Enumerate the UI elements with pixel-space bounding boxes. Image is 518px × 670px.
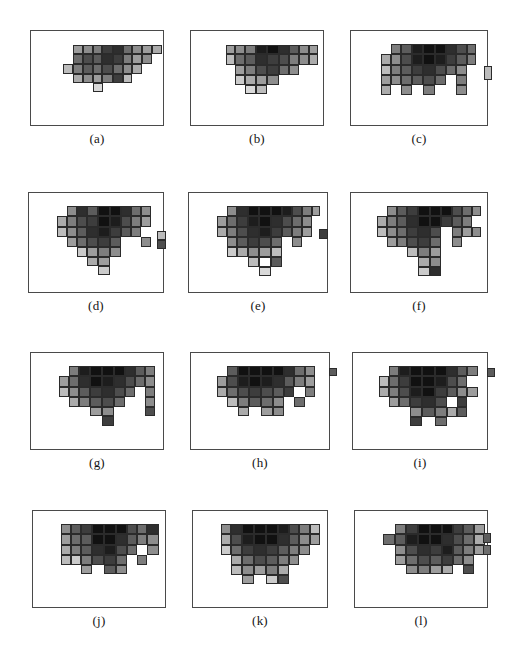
block-cell xyxy=(273,387,284,397)
block-cell xyxy=(256,45,267,54)
block-cell xyxy=(90,376,102,387)
block-cell xyxy=(294,397,305,407)
panel-caption-c: (c) xyxy=(350,131,488,146)
block-cell xyxy=(79,366,90,376)
block-cell xyxy=(279,54,289,65)
block-cell xyxy=(435,376,447,387)
block-cell xyxy=(289,555,299,565)
block-cell xyxy=(472,206,481,216)
block-cell xyxy=(284,366,294,376)
block-cell xyxy=(423,44,435,54)
block-cell xyxy=(110,237,121,247)
block-cell xyxy=(329,368,337,376)
block-cell xyxy=(248,247,259,257)
block-cell xyxy=(254,555,266,565)
block-cell xyxy=(145,376,155,387)
block-cell xyxy=(71,534,81,545)
panel-caption-i: (i) xyxy=(352,455,488,470)
block-cell xyxy=(453,555,463,565)
block-cell xyxy=(102,64,113,74)
block-cell xyxy=(452,237,462,247)
block-cell xyxy=(98,247,110,257)
block-cell xyxy=(435,54,446,65)
panel-canvas-k xyxy=(193,511,327,607)
block-cell xyxy=(391,75,401,85)
block-cell xyxy=(87,247,98,257)
block-cell xyxy=(261,387,273,397)
panel-e: (e) xyxy=(188,192,328,316)
block-cell xyxy=(71,555,81,565)
block-cell xyxy=(397,206,407,216)
block-cell xyxy=(93,45,102,54)
block-cell xyxy=(319,229,328,239)
block-cell xyxy=(442,565,453,574)
block-cell xyxy=(266,565,278,575)
block-cell xyxy=(423,65,435,75)
block-cell xyxy=(90,407,102,416)
block-cell xyxy=(387,237,397,247)
block-cell xyxy=(452,227,462,237)
block-cell xyxy=(242,555,254,565)
block-cell xyxy=(309,54,318,65)
block-cell xyxy=(462,227,472,237)
block-cell xyxy=(401,85,412,95)
block-cell xyxy=(242,575,254,584)
block-cell xyxy=(399,387,410,397)
block-cell xyxy=(249,366,261,376)
block-cell xyxy=(423,54,435,65)
block-cell xyxy=(157,240,166,249)
block-cell xyxy=(261,366,273,376)
block-cell xyxy=(412,75,423,85)
block-cell xyxy=(412,54,423,65)
block-cell xyxy=(61,545,71,555)
block-cell xyxy=(102,387,114,397)
block-cell xyxy=(237,216,248,227)
panel-frame-d xyxy=(28,192,164,293)
block-cell xyxy=(98,266,110,275)
block-cell xyxy=(259,206,271,216)
block-cell xyxy=(123,64,132,74)
block-cell xyxy=(399,397,410,407)
block-cell xyxy=(217,216,227,227)
block-cell xyxy=(121,206,131,216)
panel-caption-d: (d) xyxy=(28,298,164,313)
panel-frame-l xyxy=(354,510,488,608)
block-cell xyxy=(104,524,116,534)
block-cell xyxy=(271,216,282,227)
block-cell xyxy=(410,366,422,376)
block-cell xyxy=(456,65,467,75)
block-cell xyxy=(59,376,69,387)
block-cell xyxy=(430,227,441,237)
block-cell xyxy=(83,45,93,54)
block-cell xyxy=(237,206,248,216)
block-cell xyxy=(266,545,278,555)
block-cell xyxy=(435,407,447,417)
panel-caption-h: (h) xyxy=(190,455,330,470)
block-cell xyxy=(406,534,418,545)
block-cell xyxy=(98,206,110,216)
panel-canvas-c xyxy=(351,31,487,125)
block-cell xyxy=(422,407,435,417)
block-cell xyxy=(467,366,478,376)
block-cell xyxy=(69,387,79,397)
block-cell xyxy=(231,555,242,565)
block-cell xyxy=(102,407,114,416)
block-cell xyxy=(271,237,282,247)
block-cell xyxy=(110,247,121,257)
block-cell xyxy=(147,534,159,545)
block-cell xyxy=(145,397,155,407)
block-cell xyxy=(92,555,104,565)
block-cell xyxy=(61,524,71,534)
block-cell xyxy=(467,387,478,397)
block-cell xyxy=(102,366,114,376)
block-cell xyxy=(457,366,467,376)
block-cell xyxy=(110,227,121,237)
block-cell xyxy=(266,555,278,565)
block-cell xyxy=(453,534,463,545)
block-cell xyxy=(125,387,135,397)
block-cell xyxy=(412,44,423,54)
block-cell xyxy=(261,376,273,387)
block-cell xyxy=(235,65,245,75)
block-cell xyxy=(67,237,77,247)
block-cell xyxy=(83,54,93,64)
